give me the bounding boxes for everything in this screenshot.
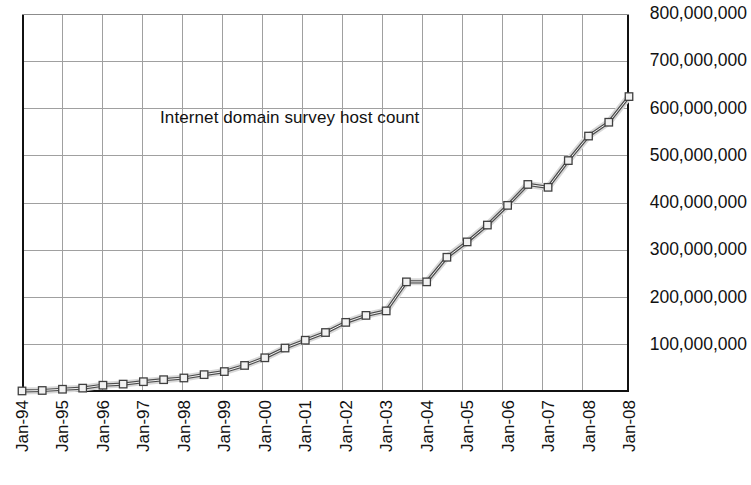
y-axis-tick-label: 200,000,000 — [650, 289, 747, 307]
x-axis-tick-label: Jan-95 — [54, 400, 71, 452]
x-axis-tick-label: Jan-08 — [581, 400, 598, 452]
series-marker — [504, 202, 512, 210]
x-axis-tick-label: Jan-94 — [14, 400, 31, 452]
y-axis-tick-labels: 800,000,000700,000,000600,000,000500,000… — [636, 0, 751, 485]
x-axis-tick-label: Jan-04 — [419, 400, 436, 452]
series-marker — [281, 344, 289, 352]
x-axis-tick-label: Jan-97 — [135, 400, 152, 452]
series-marker — [160, 376, 168, 384]
y-axis-tick-label: 300,000,000 — [650, 242, 747, 260]
series-marker — [605, 118, 613, 126]
y-axis-tick-label: 100,000,000 — [650, 336, 747, 354]
series-marker — [342, 319, 350, 327]
series-marker — [180, 374, 188, 382]
series-marker — [362, 312, 370, 320]
series-marker — [119, 380, 127, 388]
series-marker — [585, 132, 593, 140]
chart-figure: Internet domain survey host count 800,00… — [0, 0, 751, 485]
series-line — [22, 97, 629, 391]
data-series-line — [22, 14, 629, 392]
x-axis-tick-label: Jan-01 — [297, 400, 314, 452]
x-axis-tick-label: Jan-08 — [621, 400, 638, 452]
series-marker — [200, 371, 208, 379]
series-marker — [322, 329, 330, 337]
x-axis-tick-labels: Jan-94Jan-95Jan-96Jan-97Jan-98Jan-99Jan-… — [0, 392, 640, 485]
series-line-halo — [22, 97, 629, 391]
series-marker — [99, 381, 107, 389]
series-marker — [382, 307, 390, 315]
series-marker — [524, 181, 532, 189]
y-axis-tick-label: 700,000,000 — [650, 53, 747, 71]
x-axis-tick-label: Jan-98 — [176, 400, 193, 452]
x-axis-tick-label: Jan-07 — [540, 400, 557, 452]
y-axis-tick-label: 600,000,000 — [650, 100, 747, 118]
chart-title: Internet domain survey host count — [160, 108, 419, 128]
x-axis-tick-label: Jan-05 — [459, 400, 476, 452]
x-axis-tick-label: Jan-96 — [95, 400, 112, 452]
series-marker — [423, 278, 431, 286]
x-axis-tick-label: Jan-03 — [378, 400, 395, 452]
series-marker — [403, 278, 411, 286]
series-marker — [79, 384, 87, 392]
series-marker — [484, 221, 492, 229]
series-marker — [241, 362, 249, 370]
series-marker — [261, 354, 269, 362]
series-marker — [544, 184, 552, 192]
x-axis-tick-label: Jan-99 — [216, 400, 233, 452]
series-line-inner — [22, 97, 629, 391]
series-marker — [625, 93, 633, 101]
series-marker — [443, 254, 451, 262]
series-marker — [140, 378, 148, 386]
series-marker — [221, 368, 229, 376]
plot-area — [22, 14, 629, 392]
series-marker — [302, 336, 310, 344]
series-marker — [565, 157, 573, 165]
x-axis-tick-label: Jan-00 — [257, 400, 274, 452]
x-axis-tick-label: Jan-06 — [500, 400, 517, 452]
x-axis-tick-label: Jan-02 — [338, 400, 355, 452]
series-marker — [463, 238, 471, 246]
y-axis-tick-label: 800,000,000 — [650, 5, 747, 23]
y-axis-tick-label: 400,000,000 — [650, 194, 747, 212]
y-axis-tick-label: 500,000,000 — [650, 147, 747, 165]
